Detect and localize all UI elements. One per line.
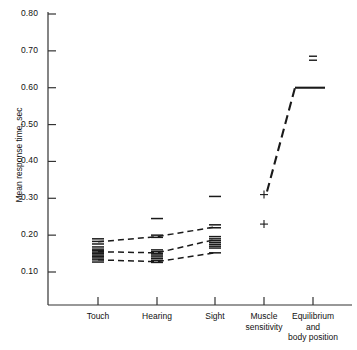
y-tick-label: 0.30	[4, 192, 38, 202]
y-tick-label: 0.50	[4, 119, 38, 129]
plot-area	[0, 0, 357, 350]
y-tick-label: 0.20	[4, 229, 38, 239]
x-tick-label: Equilibriumandbody position	[268, 311, 357, 343]
x-tick-label-line: Equilibrium	[268, 311, 357, 322]
y-tick-label: 0.80	[4, 8, 38, 18]
y-tick-label: 0.10	[4, 266, 38, 276]
response-time-chart: Mean response time, sec 0.800.700.600.50…	[0, 0, 357, 350]
trend-line-dashed	[98, 240, 215, 253]
y-tick-label: 0.70	[4, 45, 38, 55]
x-tick-label-line: and	[268, 322, 357, 333]
y-tick-label: 0.60	[4, 82, 38, 92]
trend-line-dashed	[267, 88, 295, 192]
y-tick-label: 0.40	[4, 155, 38, 165]
x-tick-label-line: body position	[268, 332, 357, 343]
